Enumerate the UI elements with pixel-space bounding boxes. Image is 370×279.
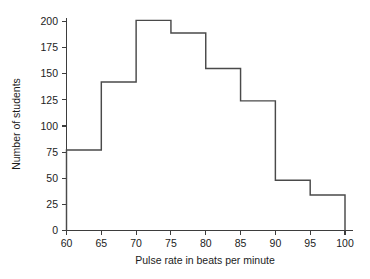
x-axis-tick-labels: 60 65 70 75 80 85 90 95 100 — [61, 237, 354, 249]
y-tick-label: 200 — [40, 15, 58, 27]
x-tick-label: 75 — [165, 237, 177, 249]
x-tick-label: 95 — [304, 237, 316, 249]
chart-canvas: 0 25 50 75 100 125 150 175 200 60 65 70 — [0, 0, 370, 279]
y-tick-label: 175 — [40, 41, 58, 53]
y-tick-label: 125 — [40, 94, 58, 106]
y-tick-label: 50 — [46, 172, 58, 184]
x-tick-label: 90 — [270, 237, 282, 249]
y-tick-label: 150 — [40, 67, 58, 79]
x-tick-label: 80 — [200, 237, 212, 249]
y-axis-title: Number of students — [10, 78, 22, 170]
y-tick-label: 25 — [46, 198, 58, 210]
y-tick-label: 75 — [46, 146, 58, 158]
x-tick-label: 70 — [130, 237, 142, 249]
y-tick-label: 0 — [52, 224, 58, 236]
x-axis-title: Pulse rate in beats per minute — [135, 254, 275, 266]
x-tick-label: 60 — [61, 237, 73, 249]
y-tick-label: 100 — [40, 120, 58, 132]
x-tick-label: 100 — [336, 237, 354, 249]
x-tick-label: 85 — [235, 237, 247, 249]
histogram-chart: 0 25 50 75 100 125 150 175 200 60 65 70 — [0, 0, 370, 279]
x-tick-label: 65 — [95, 237, 107, 249]
